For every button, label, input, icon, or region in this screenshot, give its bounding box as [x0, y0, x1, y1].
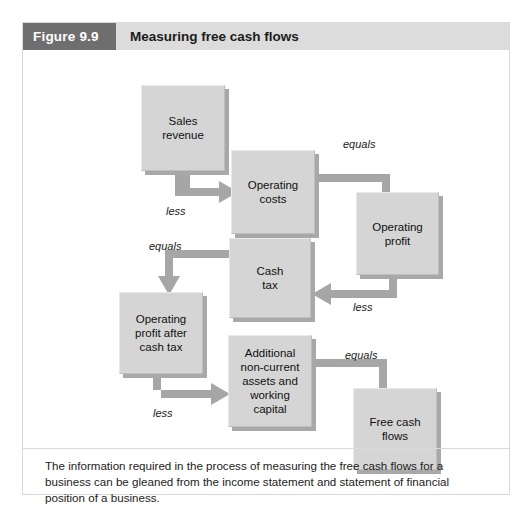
node-label: Additionalnon-currentassets andworkingca…	[241, 346, 300, 416]
node-label: Free cashflows	[369, 415, 420, 443]
node-label: Operatingcosts	[248, 178, 299, 206]
connector-label-costs-to-operating-profit: equals	[343, 138, 375, 150]
node-label: Operatingprofit	[372, 220, 423, 248]
figure-number-badge: Figure 9.9	[23, 23, 116, 50]
node-cash-tax[interactable]: Cashtax	[229, 238, 311, 318]
node-label: Cashtax	[257, 264, 284, 292]
connector-label-profit-after-to-additional: less	[153, 407, 173, 419]
connector-label-additional-to-free-cash: equals	[345, 349, 377, 361]
arrow-profit-after-to-additional	[153, 374, 230, 405]
node-operating-profit-after-cash-tax[interactable]: Operatingprofit aftercash tax	[119, 292, 203, 374]
node-label: Salesrevenue	[162, 114, 204, 142]
figure-title: Measuring free cash flows	[116, 23, 509, 50]
node-label: Operatingprofit aftercash tax	[135, 312, 187, 354]
flowchart-diagram: Salesrevenue Operatingcosts Operatingpro…	[23, 50, 509, 448]
node-operating-profit[interactable]: Operatingprofit	[356, 192, 439, 275]
connector-label-sales-to-operating-costs: less	[166, 205, 186, 217]
figure-caption: The information required in the process …	[23, 448, 509, 494]
connector-label-cash-tax-to-profit-after: equals	[149, 240, 181, 252]
node-operating-costs[interactable]: Operatingcosts	[231, 150, 315, 234]
node-additional-assets[interactable]: Additionalnon-currentassets andworkingca…	[228, 335, 312, 427]
connector-label-profit-to-cash-tax: less	[353, 301, 373, 313]
arrow-sales-to-operating-costs	[175, 168, 238, 203]
figure-header: Figure 9.9 Measuring free cash flows	[23, 23, 509, 50]
arrow-cash-tax-to-profit-after	[158, 250, 229, 295]
figure-frame: Figure 9.9 Measuring free cash flows	[22, 22, 510, 495]
node-sales-revenue[interactable]: Salesrevenue	[141, 85, 225, 171]
